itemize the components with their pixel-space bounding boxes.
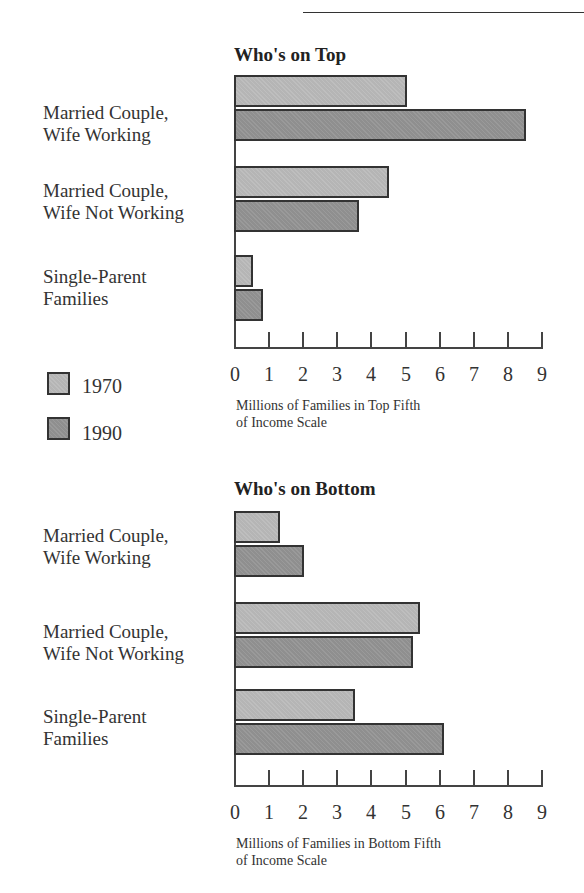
x-tick-label: 0 xyxy=(225,801,245,824)
bottom-axis-label: Millions of Families in Bottom Fifth of … xyxy=(236,835,441,869)
top-category-label: Single-Parent Families xyxy=(43,266,146,310)
bottom-category-label: Married Couple, Wife Not Working xyxy=(43,621,184,665)
x-tick xyxy=(370,332,372,348)
x-tick xyxy=(541,770,543,786)
x-tick-label: 8 xyxy=(498,801,518,824)
x-tick xyxy=(507,770,509,786)
x-tick-label: 7 xyxy=(464,801,484,824)
x-tick-label: 1 xyxy=(259,801,279,824)
x-tick xyxy=(439,770,441,786)
top-x-axis xyxy=(234,347,543,349)
x-tick-label: 5 xyxy=(396,363,416,386)
x-tick-label: 7 xyxy=(464,363,484,386)
bar-1970 xyxy=(234,511,280,543)
bar-1990 xyxy=(234,545,304,577)
bar-1970 xyxy=(234,75,407,107)
bar-1990 xyxy=(234,200,359,232)
bar-1970 xyxy=(234,602,420,634)
x-tick-label: 9 xyxy=(532,801,552,824)
x-tick-label: 5 xyxy=(396,801,416,824)
x-tick xyxy=(541,332,543,348)
x-tick xyxy=(302,770,304,786)
x-tick xyxy=(268,332,270,348)
x-tick xyxy=(370,770,372,786)
x-tick xyxy=(336,332,338,348)
x-tick-label: 6 xyxy=(430,801,450,824)
x-tick-label: 3 xyxy=(327,801,347,824)
bar-1990 xyxy=(234,723,444,755)
x-tick-label: 1 xyxy=(259,363,279,386)
x-tick-label: 2 xyxy=(293,363,313,386)
x-tick-label: 4 xyxy=(361,363,381,386)
legend-label-1990: 1990 xyxy=(82,422,122,445)
bottom-chart-title: Who's on Bottom xyxy=(234,478,375,500)
bar-1970 xyxy=(234,255,253,287)
x-tick-label: 0 xyxy=(225,363,245,386)
x-tick xyxy=(405,332,407,348)
x-tick xyxy=(507,332,509,348)
bar-1990 xyxy=(234,636,413,668)
x-tick-label: 8 xyxy=(498,363,518,386)
bar-1990 xyxy=(234,109,526,141)
x-tick-label: 3 xyxy=(327,363,347,386)
top-category-label: Married Couple, Wife Not Working xyxy=(43,180,184,224)
top-axis-label: Millions of Families in Top Fifth of Inc… xyxy=(236,397,420,431)
legend-swatch-1990 xyxy=(47,417,70,440)
x-tick xyxy=(268,770,270,786)
x-tick-label: 2 xyxy=(293,801,313,824)
bar-1990 xyxy=(234,289,263,321)
x-tick-label: 4 xyxy=(361,801,381,824)
bar-1970 xyxy=(234,166,389,198)
top-chart-title: Who's on Top xyxy=(234,44,346,66)
x-tick xyxy=(439,332,441,348)
x-tick xyxy=(336,770,338,786)
bottom-category-label: Married Couple, Wife Working xyxy=(43,525,169,569)
legend-swatch-1970 xyxy=(47,372,70,395)
x-tick xyxy=(473,770,475,786)
x-tick-label: 6 xyxy=(430,363,450,386)
x-tick-label: 9 xyxy=(532,363,552,386)
top-category-label: Married Couple, Wife Working xyxy=(43,102,169,146)
x-tick xyxy=(405,770,407,786)
bar-1970 xyxy=(234,689,355,721)
legend-label-1970: 1970 xyxy=(82,375,122,398)
header-rule xyxy=(303,12,584,13)
x-tick xyxy=(302,332,304,348)
x-tick xyxy=(473,332,475,348)
bottom-category-label: Single-Parent Families xyxy=(43,706,146,750)
bottom-x-axis xyxy=(234,785,543,787)
